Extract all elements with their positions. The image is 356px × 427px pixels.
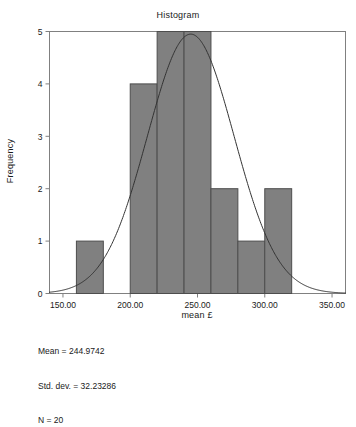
- histogram-bar: [157, 32, 184, 294]
- y-tick-label: 1: [38, 236, 43, 246]
- histogram-bar: [76, 241, 103, 293]
- stat-std-dev: Std. dev. = 32.23286: [38, 381, 116, 393]
- y-tick-label: 2: [38, 184, 43, 194]
- y-tick-label: 0: [38, 289, 43, 299]
- x-axis-title: mean £: [49, 310, 345, 320]
- x-tick-label: 200.00: [117, 300, 143, 310]
- histogram-bar: [238, 241, 265, 293]
- x-tick-label: 350.00: [319, 300, 345, 310]
- histogram-bar: [211, 189, 238, 294]
- x-tick-label: 150.00: [50, 300, 76, 310]
- y-tick-label: 4: [38, 79, 43, 89]
- statistics-annotation: Mean = 244.9742 Std. dev. = 32.23286 N =…: [38, 323, 116, 427]
- y-tick-label: 3: [38, 132, 43, 142]
- stat-mean: Mean = 244.9742: [38, 346, 116, 358]
- stat-n: N = 20: [38, 415, 116, 427]
- histogram-bar: [184, 32, 211, 294]
- x-tick-label: 300.00: [252, 300, 278, 310]
- y-tick-label: 5: [38, 27, 43, 37]
- x-tick-label: 250.00: [185, 300, 211, 310]
